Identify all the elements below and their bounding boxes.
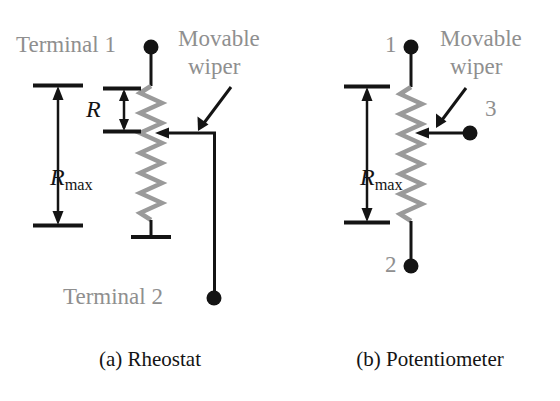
wiper-callout-arrowhead <box>198 117 209 132</box>
label-rmax-a-sub: max <box>65 175 93 194</box>
rmax-arrowhead-up-b <box>362 87 373 101</box>
figure-canvas: Terminal 1 Movable wiper Rmax R Terminal… <box>0 0 560 401</box>
r-arrowhead-down <box>119 119 129 131</box>
label-node-3: 3 <box>485 97 497 122</box>
wiper-arrowhead-b <box>415 128 429 139</box>
wiper-callout-arrow-shaft-b <box>442 88 466 120</box>
label-movable-wiper-line1-a: Movable <box>178 27 260 52</box>
node1-dot <box>404 40 419 55</box>
label-rmax-b: Rmax <box>336 137 403 218</box>
label-movable-wiper-line1-b: Movable <box>440 27 522 52</box>
wiper-callout-arrow-shaft <box>204 87 231 123</box>
caption-panel-b: (b) Potentiometer <box>330 347 530 372</box>
label-movable-wiper-line2-a: wiper <box>188 55 240 80</box>
label-r-a: R <box>86 96 101 123</box>
label-movable-wiper-line2-b: wiper <box>450 55 502 80</box>
resistor-zigzag-b <box>400 87 422 221</box>
label-terminal-2: Terminal 2 <box>63 285 163 310</box>
rmax-arrowhead-up <box>53 86 64 100</box>
label-rmax-b-sub: max <box>375 175 403 194</box>
caption-panel-a: (a) Rheostat <box>30 347 270 372</box>
terminal2-node-dot <box>207 291 222 306</box>
wiper-callout-arrowhead-b <box>436 114 447 129</box>
label-node-2: 2 <box>385 253 397 278</box>
label-terminal-1: Terminal 1 <box>16 33 116 58</box>
label-rmax-a: Rmax <box>26 137 93 218</box>
node3-dot <box>463 126 478 141</box>
wiper-arrowhead <box>155 128 169 139</box>
node2-dot <box>404 259 419 274</box>
resistor-zigzag <box>140 86 162 220</box>
terminal1-node-dot <box>144 40 159 55</box>
r-arrowhead-up <box>119 89 129 101</box>
label-node-1: 1 <box>385 33 397 58</box>
label-rmax-a-main: R <box>50 164 65 190</box>
label-rmax-b-main: R <box>360 164 375 190</box>
